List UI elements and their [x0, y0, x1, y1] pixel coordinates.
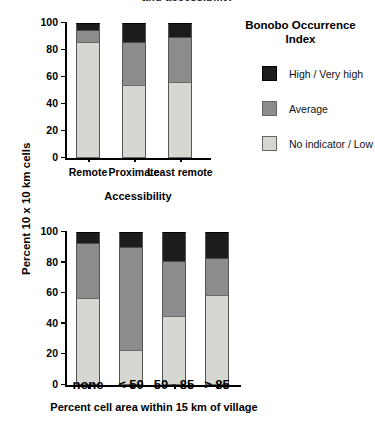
stacked-bar[interactable]: [76, 232, 100, 385]
stacked-bar[interactable]: [119, 232, 143, 385]
y-axis-tick-mark: [61, 384, 65, 386]
x-axis-category-label: Least remote: [147, 166, 212, 178]
bar-segment-avg: [122, 42, 146, 85]
bar-segment-low: [76, 42, 100, 158]
y-axis-line: [65, 231, 67, 386]
stacked-bar[interactable]: [76, 23, 100, 158]
y-axis-line: [65, 22, 67, 159]
legend-label-low: No indicator / Low: [289, 138, 373, 150]
legend-title-line1: Bonobo Occurrence: [245, 19, 356, 31]
bar-segment-high: [168, 23, 192, 37]
plot-area-accessibility: [66, 22, 211, 158]
bar-segment-low: [76, 298, 100, 385]
legend-swatch-high-icon: [262, 66, 277, 81]
bar-segment-avg: [205, 258, 229, 295]
y-axis-tick-label: 100: [0, 225, 58, 237]
x-axis-line: [65, 158, 211, 160]
bar-segment-high: [122, 23, 146, 42]
y-axis-tick-label: 0: [0, 151, 58, 163]
bar-segment-avg: [162, 261, 186, 316]
x-axis-category-label: < 50: [118, 377, 144, 392]
bar-segment-low: [162, 316, 186, 385]
y-axis-tick-mark: [61, 130, 65, 132]
bar-segment-high: [162, 232, 186, 261]
y-axis-tick-label: 100: [0, 16, 58, 28]
y-axis-tick-label: 20: [0, 124, 58, 136]
x-axis-category-label: none: [72, 377, 103, 392]
y-axis-tick-mark: [61, 261, 65, 263]
plot-area-village-proximity: [66, 231, 241, 385]
y-axis-tick-mark: [61, 322, 65, 324]
bar-segment-high: [119, 232, 143, 247]
bar-segment-avg: [119, 247, 143, 350]
y-axis-tick-label: 60: [0, 286, 58, 298]
bar-segment-low: [168, 82, 192, 158]
legend-label-average: Average: [289, 103, 328, 115]
stacked-bar[interactable]: [205, 232, 229, 385]
stacked-bar[interactable]: [168, 23, 192, 158]
x-axis-title-accessibility: Accessibility: [104, 190, 171, 202]
y-axis-tick-mark: [61, 49, 65, 51]
x-axis-tick-mark: [88, 158, 90, 162]
y-axis-tick-label: 60: [0, 70, 58, 82]
x-axis-category-label: 50 - 85: [154, 377, 194, 392]
y-axis-tick-mark: [61, 22, 65, 24]
stacked-bar[interactable]: [122, 23, 146, 158]
legend-item-high[interactable]: High / Very high: [262, 66, 363, 81]
legend-title: Bonobo Occurrence Index: [228, 18, 373, 46]
legend-swatch-average-icon: [262, 101, 277, 116]
legend: Bonobo Occurrence Index High / Very high…: [228, 18, 375, 153]
x-axis-tick-mark: [180, 158, 182, 162]
x-axis-category-label: Remote: [69, 166, 108, 178]
stacked-bar[interactable]: [162, 232, 186, 385]
y-axis-tick-label: 40: [0, 97, 58, 109]
bar-segment-avg: [76, 243, 100, 298]
bar-segment-high: [205, 232, 229, 258]
legend-label-high: High / Very high: [289, 68, 363, 80]
bar-segment-high: [76, 23, 100, 30]
y-axis-tick-mark: [61, 292, 65, 294]
y-axis-tick-label: 80: [0, 43, 58, 55]
y-axis-tick-mark: [61, 231, 65, 233]
y-axis-tick-mark: [61, 103, 65, 105]
bar-segment-avg: [168, 37, 192, 83]
bar-segment-high: [76, 232, 100, 243]
legend-swatch-low-icon: [262, 136, 277, 151]
bar-segment-low: [205, 295, 229, 385]
y-axis-tick-mark: [61, 76, 65, 78]
y-axis-tick-label: 0: [0, 378, 58, 390]
x-axis-title-village-proximity: Percent cell area within 15 km of villag…: [50, 401, 257, 413]
legend-title-line2: Index: [285, 33, 315, 45]
bar-segment-low: [122, 85, 146, 158]
legend-item-low[interactable]: No indicator / Low: [262, 136, 373, 151]
x-axis-category-label: > 85: [204, 377, 230, 392]
y-axis-tick-label: 80: [0, 256, 58, 268]
y-axis-tick-label: 20: [0, 347, 58, 359]
chart-panel-accessibility: Accessibility 020406080100RemoteProximat…: [0, 0, 230, 215]
figure-root: and accessibility Percent 10 x 10 km cel…: [0, 0, 375, 427]
y-axis-tick-label: 40: [0, 317, 58, 329]
x-axis-tick-mark: [134, 158, 136, 162]
y-axis-tick-mark: [61, 353, 65, 355]
legend-item-average[interactable]: Average: [262, 101, 328, 116]
bar-segment-avg: [76, 30, 100, 42]
chart-panel-village-proximity: Percent cell area within 15 km of villag…: [0, 215, 260, 427]
y-axis-tick-mark: [61, 157, 65, 159]
